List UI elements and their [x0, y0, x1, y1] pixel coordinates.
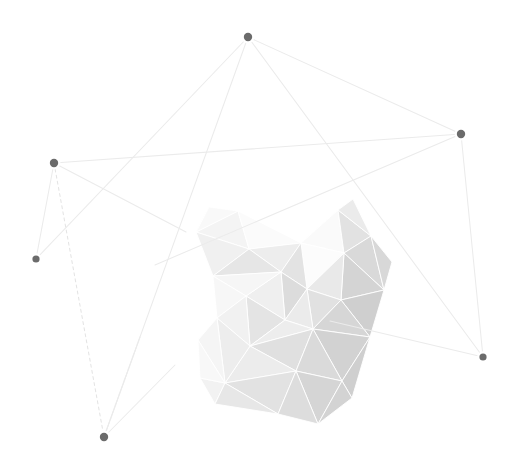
network-node[interactable] — [100, 433, 108, 441]
artwork-canvas — [0, 0, 517, 469]
network-node[interactable] — [244, 33, 252, 41]
network-edge — [36, 163, 54, 259]
network-node[interactable] — [457, 130, 465, 138]
network-node[interactable] — [50, 159, 58, 167]
network-edge — [104, 365, 175, 437]
artwork-svg — [0, 0, 517, 469]
network-edge — [54, 163, 104, 437]
network-edge — [54, 134, 461, 163]
polyhedron-facet — [238, 211, 301, 249]
network-edge — [54, 163, 186, 232]
polyhedron-facets — [196, 199, 392, 424]
network-edge — [248, 37, 461, 134]
network-node[interactable] — [479, 353, 486, 360]
network-edge — [461, 134, 483, 357]
network-node[interactable] — [32, 255, 39, 262]
network-edge — [104, 337, 140, 437]
